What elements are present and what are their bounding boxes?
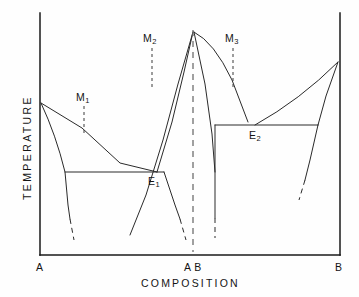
phase-diagram-figure: TEMPERATURE COMPOSITION A A B B M1 M2 M3…	[0, 0, 359, 297]
liquidus-outer-m2-branch	[130, 32, 193, 235]
label-e1: E1	[148, 176, 159, 187]
label-m1-letter: M	[76, 91, 85, 103]
x-tick-label-b: B	[335, 262, 343, 273]
phase-diagram-plot	[0, 0, 359, 297]
label-e2-letter: E	[249, 129, 256, 141]
label-m1-subscript: 1	[85, 96, 89, 105]
x-axis-title: COMPOSITION	[141, 278, 240, 289]
label-m3-subscript: 3	[234, 37, 238, 46]
label-m2: M2	[143, 33, 156, 44]
solvus-right-of-e1	[164, 172, 180, 219]
liquidus-ab-peak-to-e2-level	[194, 32, 215, 172]
y-axis-title: TEMPERATURE	[22, 95, 33, 200]
label-e1-subscript: 1	[156, 180, 160, 189]
liquidus-e1-to-ab-peak	[157, 32, 193, 172]
label-m1: M1	[76, 92, 89, 103]
x-tick-label-ab: A B	[184, 262, 202, 273]
x-tick-label-a: A	[36, 262, 44, 273]
solvus-right-of-e1-dashed	[180, 219, 186, 240]
label-m3: M3	[225, 33, 238, 44]
solvus-a-side-dashed	[70, 219, 74, 240]
label-m2-subscript: 2	[152, 37, 156, 46]
label-e1-letter: E	[148, 175, 155, 187]
liquidus-a-to-e1	[41, 103, 157, 172]
solvus-b-side	[305, 125, 318, 180]
label-e2-subscript: 2	[257, 134, 261, 143]
label-e2: E2	[249, 130, 260, 141]
label-m2-letter: M	[143, 32, 152, 44]
solvus-a-side	[41, 103, 70, 219]
liquidus-e2-to-b	[255, 62, 338, 125]
label-m3-letter: M	[225, 32, 234, 44]
solvus-b-side-dashed	[299, 180, 305, 200]
liquidus-outer-m3-branch	[194, 32, 248, 122]
